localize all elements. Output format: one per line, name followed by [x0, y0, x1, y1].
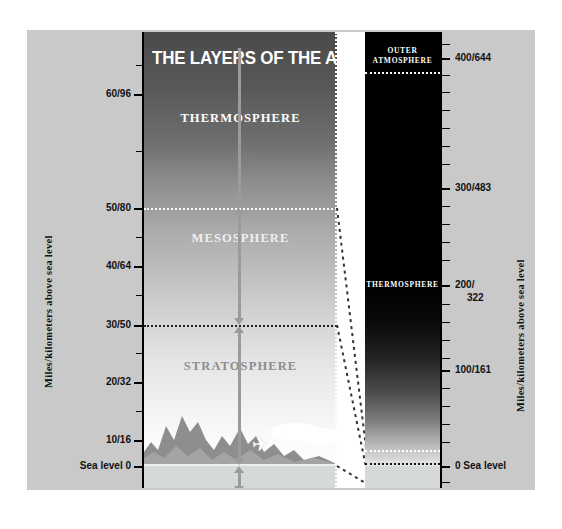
- left-axis-label-40: 40/64: [67, 260, 131, 271]
- airplane-icon: ✈: [250, 431, 270, 457]
- left-axis-label-10: 10/16: [67, 434, 131, 445]
- left-tick-60: [134, 94, 144, 96]
- page-title: THE LAYERS OF THE ATMOSPHERE: [152, 48, 337, 69]
- right-minor-tick: [442, 242, 450, 243]
- right-axis-title: Miles/kilometers above sea level: [515, 162, 526, 412]
- left-minor-tick: [136, 295, 144, 296]
- rc-label-thermosphere: THERMOSPHERE: [365, 280, 440, 289]
- thickness-arrow-troposphere: [234, 466, 244, 488]
- left-axis-label-30: 30/50: [67, 319, 131, 330]
- atmosphere-diagram: Miles/kilometers above sea level 60/96 5…: [27, 30, 535, 490]
- right-minor-tick: [442, 482, 450, 483]
- right-minor-tick: [442, 322, 450, 323]
- left-axis-label-50: 50/80: [67, 202, 131, 213]
- right-axis-label-200-b: 322: [467, 292, 537, 303]
- right-minor-tick: [442, 92, 450, 93]
- rc-label-outer-atmosphere-2: ATMOSPHERE: [365, 56, 440, 65]
- left-minor-tick: [136, 151, 144, 152]
- right-minor-tick: [442, 424, 450, 425]
- left-tick-0: [134, 466, 144, 468]
- right-tick-300: [440, 188, 450, 190]
- left-axis-label-20: 20/32: [67, 376, 131, 387]
- right-minor-tick: [442, 224, 450, 225]
- right-minor-tick: [442, 406, 450, 407]
- right-minor-tick: [442, 340, 450, 341]
- left-axis-label-60: 60/96: [67, 88, 131, 99]
- right-minor-tick: [442, 442, 450, 443]
- rc-ocean-band: [365, 466, 440, 488]
- left-axis-label-0: Sea level 0: [29, 460, 131, 471]
- rc-boundary-outer: [365, 72, 440, 74]
- right-minor-tick: [442, 206, 450, 207]
- compressed-atmosphere-column: OUTER ATMOSPHERE THERMOSPHERE MESOSPHERE…: [365, 32, 440, 488]
- left-tick-50: [134, 208, 144, 210]
- right-minor-tick: [442, 146, 450, 147]
- right-tick-400: [440, 58, 450, 60]
- thickness-arrow-stratosphere: [234, 326, 244, 472]
- rc-label-mesosphere: MESOSPHERE: [365, 452, 440, 461]
- thickness-arrow-thermosphere: [234, 48, 244, 212]
- right-minor-tick: [442, 75, 450, 76]
- left-minor-tick: [136, 353, 144, 354]
- right-minor-tick: [442, 388, 450, 389]
- right-minor-tick: [442, 358, 450, 359]
- left-tick-40: [134, 266, 144, 268]
- right-tick-200: [440, 285, 450, 287]
- left-tick-20: [134, 382, 144, 384]
- left-tick-10: [134, 440, 144, 442]
- left-minor-tick: [136, 411, 144, 412]
- right-axis-label-400: 400/644: [455, 52, 525, 63]
- right-tick-0: [440, 466, 450, 468]
- right-minor-tick: [442, 110, 450, 111]
- right-minor-tick: [442, 128, 450, 129]
- left-minor-tick: [136, 237, 144, 238]
- left-tick-30: [134, 325, 144, 327]
- right-minor-tick: [442, 304, 450, 305]
- rc-label-outer-atmosphere-1: OUTER: [365, 46, 440, 55]
- thickness-arrow-mesosphere: [234, 208, 244, 330]
- left-axis-title: Miles/kilometers above sea level: [43, 138, 54, 388]
- right-minor-tick: [442, 44, 450, 45]
- panel-gap: [337, 32, 365, 488]
- right-tick-100: [440, 370, 450, 372]
- right-axis-label-0: 0 Sea level: [455, 460, 545, 471]
- expanded-atmosphere-panel: THE LAYERS OF THE ATMOSPHERE THERMOSPHER…: [144, 32, 337, 488]
- left-minor-tick: [136, 65, 144, 66]
- right-minor-tick: [442, 164, 450, 165]
- right-minor-tick: [442, 260, 450, 261]
